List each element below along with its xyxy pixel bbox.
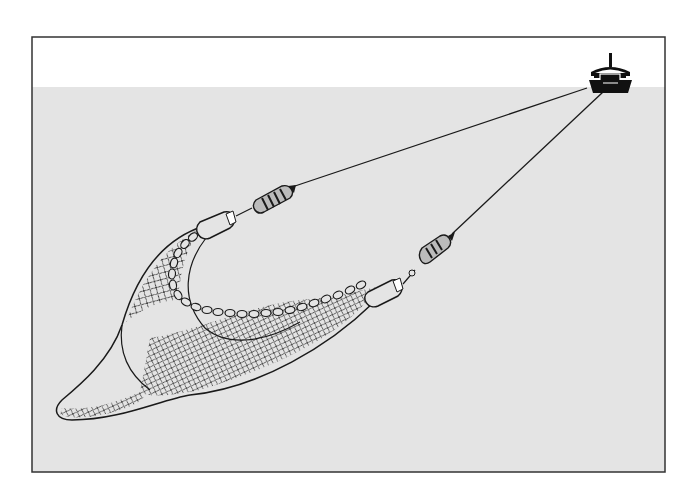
water-area	[32, 87, 665, 472]
seine-net-diagram	[0, 0, 692, 497]
